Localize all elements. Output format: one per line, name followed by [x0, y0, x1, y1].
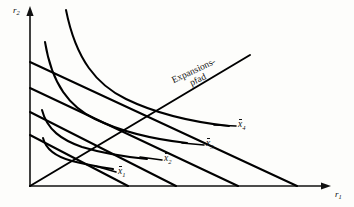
- x-axis-arrowhead: [321, 182, 331, 189]
- isoquant-label-x1-symbol: x: [118, 167, 122, 177]
- isoquant-label-x3: x3: [206, 139, 213, 150]
- isoquant-label-x2-symbol: x: [164, 154, 168, 164]
- leader-line-x4: [214, 125, 236, 126]
- isoquant-label-x3-symbol: x: [206, 139, 210, 149]
- expansion-path-diagram: r2 r1 Expansions- pfad x1 x2 x3 x4: [0, 0, 354, 207]
- isoquant-label-x2: x2: [164, 154, 171, 165]
- isoquant-label-x1-subscript: 1: [122, 171, 125, 178]
- x-axis-label-subscript: 1: [339, 193, 342, 200]
- isoquant-label-x3-subscript: 3: [210, 143, 213, 150]
- diagram-canvas: [0, 0, 354, 207]
- isoquant-label-x4-symbol: x: [238, 120, 242, 130]
- isoquant-label-x1: x1: [118, 167, 125, 178]
- isoquant-label-x4: x4: [238, 120, 245, 131]
- y-axis-label-subscript: 2: [17, 9, 20, 16]
- y-axis-label: r2: [13, 6, 20, 17]
- x-axis-label: r1: [335, 190, 342, 201]
- isoquant-label-x4-subscript: 4: [242, 124, 245, 131]
- y-axis-arrowhead: [26, 6, 33, 16]
- isoquant-label-x2-subscript: 2: [168, 158, 171, 165]
- leader-line-x3: [182, 143, 204, 145]
